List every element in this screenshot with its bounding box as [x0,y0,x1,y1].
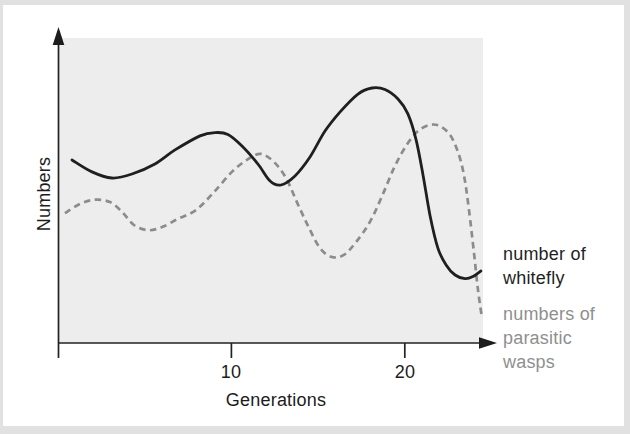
legend-whitefly-label: number of whitefly [503,242,619,290]
x-tick-label-10: 10 [209,360,253,384]
y-axis-arrow-icon [53,27,65,45]
y-axis-label: Numbers [32,119,56,269]
x-axis-arrow-icon [479,337,497,348]
figure-canvas: Numbers Generations 10 20 number of whit… [0,0,630,434]
x-axis-label: Generations [196,388,356,412]
whitefly-curve [72,88,481,279]
x-tick-label-20: 20 [383,360,427,384]
legend-wasps-label: numbers of parasitic wasps [503,302,619,374]
